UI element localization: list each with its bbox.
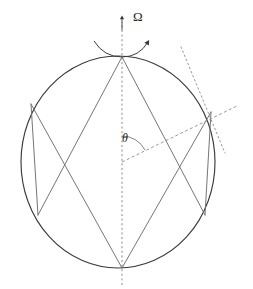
ray-top-to-lower-left bbox=[38, 57, 122, 215]
omega-rotation-arrow-group bbox=[94, 41, 148, 57]
attractor-ray-group bbox=[31, 57, 211, 268]
sphere-boundary-circle bbox=[21, 56, 215, 268]
ray-top-to-lower-right bbox=[122, 57, 205, 215]
theta-angle-label: θ bbox=[122, 132, 128, 144]
ray-upper-left-to-lower-left bbox=[31, 104, 38, 215]
omega-rotation-label: Ω bbox=[133, 10, 143, 23]
ray-bottom-to-upper-right bbox=[122, 112, 211, 268]
ray-bottom-to-upper-left bbox=[31, 104, 122, 268]
figure-canvas: Ω θ bbox=[0, 0, 253, 289]
ray-upper-right-to-lower-right bbox=[205, 112, 211, 215]
radial-dashed-line bbox=[122, 106, 237, 162]
omega-curved-arrow bbox=[94, 41, 148, 57]
tangent-dotted-line bbox=[181, 47, 225, 153]
